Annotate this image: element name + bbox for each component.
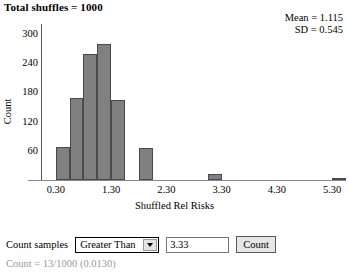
x-axis-tick: 0.30 <box>47 184 65 195</box>
histogram-bar <box>139 148 153 180</box>
x-axis-tick: 2.30 <box>157 184 175 195</box>
count-button[interactable]: Count <box>236 236 276 253</box>
histogram-bar <box>83 54 97 180</box>
histogram-bar <box>111 100 125 180</box>
chevron-down-icon[interactable] <box>143 239 157 251</box>
x-axis-label: Shuffled Rel Risks <box>0 200 349 211</box>
count-samples-label: Count samples <box>6 239 68 250</box>
x-axis-line <box>28 180 346 181</box>
histogram-bar <box>97 44 111 180</box>
x-axis-tick: 3.30 <box>212 184 230 195</box>
comparison-select[interactable]: Greater Than <box>75 237 159 253</box>
shuffle-histogram-app: Total shuffles = 1000 Mean = 1.115 SD = … <box>0 0 349 274</box>
histogram-bar <box>56 147 70 180</box>
count-controls: Count samples Greater Than Count <box>6 236 276 253</box>
histogram-bar <box>70 98 84 180</box>
x-axis-tick: 4.30 <box>268 184 286 195</box>
comparison-select-value: Greater Than <box>80 239 135 250</box>
histogram-plot: Count 60120180240300 Shuffled Rel Risks … <box>0 18 349 218</box>
threshold-input[interactable] <box>166 237 229 253</box>
count-result: Count = 13/1000 (0.0130) <box>6 258 116 269</box>
histogram-bars <box>0 18 349 180</box>
x-axis-tick: 1.30 <box>102 184 120 195</box>
x-axis-tick: 5.30 <box>323 184 341 195</box>
page-title: Total shuffles = 1000 <box>4 1 103 13</box>
